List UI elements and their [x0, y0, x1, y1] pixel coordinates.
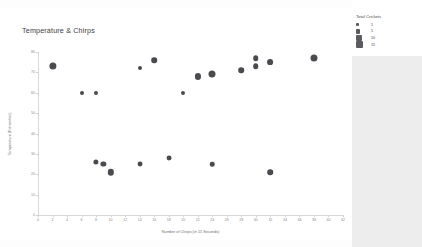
x-axis-tick-label: 40 — [326, 218, 330, 222]
y-axis-tick-label: 0 — [33, 213, 35, 217]
legend-entry[interactable]: 10 — [356, 35, 418, 41]
scatter-point[interactable] — [166, 155, 171, 160]
y-axis-tick-label: 50 — [31, 111, 35, 115]
x-axis-line — [38, 215, 343, 216]
x-axis-tick-mark — [96, 215, 97, 217]
x-axis-tick-mark — [270, 215, 271, 217]
legend-size-swatch — [356, 23, 359, 26]
scatter-point[interactable] — [239, 68, 245, 74]
x-axis-tick-mark — [227, 215, 228, 217]
legend-size-swatch — [356, 35, 362, 41]
legend-entries: 151015 — [356, 22, 418, 48]
x-axis-tick-mark — [198, 215, 199, 217]
scatter-point[interactable] — [268, 169, 274, 175]
y-axis-title: Temperature (Fahrenheit) — [8, 112, 12, 155]
legend: Total Crickets 151015 — [356, 14, 418, 49]
legend-swatch-container — [356, 35, 369, 41]
scatter-point[interactable] — [94, 91, 98, 95]
x-axis-tick-mark — [38, 215, 39, 217]
x-axis-tick-mark — [140, 215, 141, 217]
y-axis-line — [38, 52, 39, 215]
legend-title: Total Crickets — [356, 14, 418, 19]
x-axis-tick-label: 6 — [81, 218, 83, 222]
x-axis-tick-label: 42 — [341, 218, 345, 222]
x-axis-tick-label: 34 — [283, 218, 287, 222]
scatter-point[interactable] — [137, 162, 142, 167]
y-axis-tick-mark — [36, 174, 38, 175]
x-axis-tick-label: 16 — [152, 218, 156, 222]
y-axis-tick-label: 60 — [31, 91, 35, 95]
x-axis-tick-label: 0 — [37, 218, 39, 222]
scatter-point[interactable] — [80, 91, 84, 95]
x-axis-tick-mark — [53, 215, 54, 217]
chart-screenshot: Temperature & Chirps 0102030405060708002… — [0, 0, 422, 247]
x-axis-tick-label: 12 — [123, 218, 127, 222]
x-axis-tick-label: 36 — [297, 218, 301, 222]
y-axis-tick-label: 20 — [31, 172, 35, 176]
scatter-point[interactable] — [181, 91, 185, 95]
y-axis-tick-mark — [36, 93, 38, 94]
scatter-point[interactable] — [107, 169, 113, 175]
legend-size-swatch — [356, 29, 360, 33]
x-axis-tick-mark — [67, 215, 68, 217]
scatter-point[interactable] — [210, 162, 215, 167]
legend-swatch-container — [356, 29, 369, 33]
x-axis-tick-mark — [212, 215, 213, 217]
y-axis-tick-label: 10 — [31, 193, 35, 197]
x-axis-tick-label: 4 — [66, 218, 68, 222]
y-axis-tick-mark — [36, 134, 38, 135]
y-axis-tick-label: 70 — [31, 70, 35, 74]
scatter-point[interactable] — [151, 57, 157, 63]
x-axis-tick-mark — [82, 215, 83, 217]
scatter-point[interactable] — [209, 71, 216, 78]
chart-card: Temperature & Chirps 0102030405060708002… — [0, 8, 352, 240]
x-axis-tick-mark — [285, 215, 286, 217]
x-axis-tick-label: 24 — [210, 218, 214, 222]
x-axis-tick-mark — [343, 215, 344, 217]
legend-entry-label: 5 — [371, 29, 373, 33]
y-axis-tick-mark — [36, 154, 38, 155]
scatter-point[interactable] — [138, 66, 142, 70]
y-axis-tick-mark — [36, 195, 38, 196]
y-axis-tick-mark — [36, 72, 38, 73]
x-axis-tick-label: 2 — [52, 218, 54, 222]
x-axis-tick-mark — [328, 215, 329, 217]
legend-entry[interactable]: 5 — [356, 29, 418, 35]
legend-entry[interactable]: 15 — [356, 42, 418, 48]
x-axis-tick-label: 18 — [167, 218, 171, 222]
x-axis-tick-mark — [154, 215, 155, 217]
legend-entry-label: 15 — [371, 43, 375, 47]
x-axis-title: Number of Chirps (in 15 Seconds) — [38, 230, 343, 234]
legend-swatch-container — [356, 23, 369, 26]
x-axis-tick-label: 20 — [181, 218, 185, 222]
plot-area: 0102030405060708002468101214161820222426… — [38, 52, 343, 215]
legend-entry-label: 10 — [371, 36, 375, 40]
legend-swatch-container — [356, 41, 369, 48]
x-axis-tick-label: 22 — [196, 218, 200, 222]
chart-title: Temperature & Chirps — [22, 26, 95, 35]
y-axis-tick-label: 40 — [31, 132, 35, 136]
x-axis-tick-mark — [111, 215, 112, 217]
scatter-point[interactable] — [195, 73, 201, 79]
x-axis-tick-mark — [125, 215, 126, 217]
x-axis-tick-label: 32 — [268, 218, 272, 222]
x-axis-tick-mark — [183, 215, 184, 217]
scatter-point[interactable] — [253, 55, 259, 61]
scatter-point[interactable] — [310, 55, 317, 62]
scatter-point[interactable] — [49, 63, 56, 70]
scatter-point[interactable] — [101, 161, 106, 166]
x-axis-tick-label: 8 — [95, 218, 97, 222]
legend-size-swatch — [356, 41, 363, 48]
scatter-point[interactable] — [267, 59, 273, 65]
scatter-point[interactable] — [253, 63, 259, 69]
y-axis-tick-label: 80 — [31, 50, 35, 54]
x-axis-tick-mark — [241, 215, 242, 217]
x-axis-tick-mark — [299, 215, 300, 217]
x-axis-tick-mark — [314, 215, 315, 217]
x-axis-tick-label: 10 — [109, 218, 113, 222]
legend-entry[interactable]: 1 — [356, 22, 418, 28]
x-axis-tick-mark — [256, 215, 257, 217]
x-axis-tick-label: 38 — [312, 218, 316, 222]
scatter-point[interactable] — [93, 159, 98, 164]
legend-entry-label: 1 — [371, 23, 373, 27]
